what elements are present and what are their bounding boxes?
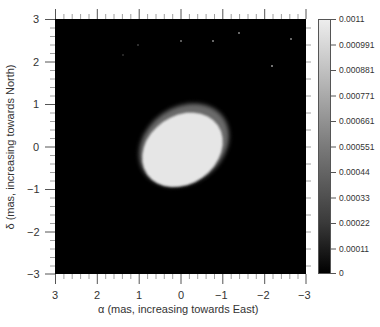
y-tick-label: −2 <box>27 226 40 238</box>
colorbar-tick-label: 0.000661 <box>339 116 374 126</box>
x-tick-label: 0 <box>178 289 184 301</box>
colorbar-tick-label: 0.00044 <box>339 167 370 177</box>
colorbar-tick-label: 0.000551 <box>339 142 374 152</box>
colorbar-tick-label: 0.000771 <box>339 91 374 101</box>
colorbar-tick-label: 0.00022 <box>339 218 370 228</box>
x-tick-label: −2 <box>257 289 270 301</box>
x-tick-label: −3 <box>298 289 311 301</box>
y-tick-label: 1 <box>33 98 39 110</box>
colorbar-tick-label: 0.0011 <box>339 14 364 24</box>
y-tick-label: 0 <box>33 141 39 153</box>
y-tick-label: −3 <box>27 268 40 280</box>
y-tick-label: 2 <box>33 56 39 68</box>
x-tick-label: 2 <box>94 289 100 301</box>
colorbar-tick-label: 0.00011 <box>339 244 369 254</box>
x-tick-label: −1 <box>215 289 228 301</box>
colorbar-tick-label: 0.00033 <box>339 193 370 203</box>
y-axis-title: δ (mas, increasing towards North) <box>4 64 16 229</box>
colorbar <box>318 19 331 274</box>
colorbar-tick-label: 0.000881 <box>339 65 374 75</box>
x-axis-title: α (mas, increasing towards East) <box>98 303 258 315</box>
y-tick-label: −1 <box>27 183 40 195</box>
colorbar-tick-label: 0 <box>339 268 344 278</box>
y-tick-label: 3 <box>33 13 39 25</box>
x-tick-label: 1 <box>136 289 142 301</box>
colorbar-tick-label: 0.000991 <box>339 40 374 50</box>
x-tick-label: 3 <box>52 289 58 301</box>
